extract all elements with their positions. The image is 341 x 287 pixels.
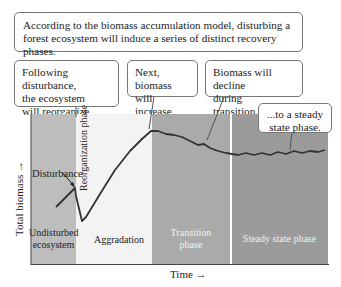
leader-increase [149,97,154,129]
leader-steady [290,132,292,150]
leader-decline [207,97,224,140]
callout-steady: ...to a steady state phase. [258,103,332,133]
curve-layer [0,0,341,287]
y-axis-label: Total biomass → [13,140,29,240]
x-axis-label: Time → [170,268,207,280]
callout-line: ...to a steady [265,108,325,121]
biomass-curve [56,131,325,221]
callout-line: state phase. [265,121,325,134]
